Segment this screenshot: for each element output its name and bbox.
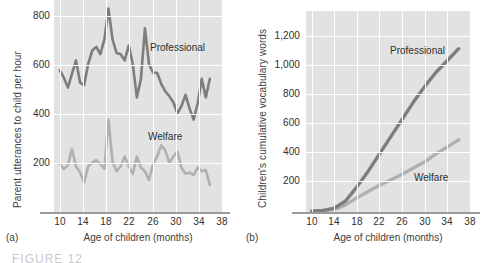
panel-a-welfare-label: Welfare: [148, 131, 182, 142]
gridline-x-34: [199, 0, 200, 212]
panel-b-xtick-26: 26: [390, 216, 414, 227]
figure-container: Parent utterances to child per hour 800 …: [0, 0, 487, 263]
gridline-x-14: [334, 11, 335, 212]
gridline-x-30: [176, 0, 177, 212]
panel-a-xtick-10: 10: [48, 216, 72, 227]
gridline-y-800: [306, 94, 470, 95]
panel-a-xtick-26: 26: [141, 216, 165, 227]
panel-a-xtick-18: 18: [94, 216, 118, 227]
panel-b-xtick-30: 30: [413, 216, 437, 227]
panel-b-ytick-600: 600: [250, 117, 300, 128]
panel-a-series-svg: [54, 0, 222, 212]
panel-b-letter: (b): [246, 232, 258, 243]
panel-b-x-axis-title: Age of children (months): [306, 232, 470, 243]
panel-a-professional-label: Professional: [150, 42, 205, 53]
panel-b-ytick-800: 800: [250, 88, 300, 99]
panel-a-plot-area: [54, 0, 222, 212]
panel-b-professional-label: Professional: [390, 45, 445, 56]
panel-b-xtick-14: 14: [322, 216, 346, 227]
panel-a-ytick-600: 600: [26, 59, 50, 70]
panel-a-ytick-200: 200: [26, 157, 50, 168]
panel-a-xtick-34: 34: [187, 216, 211, 227]
gridline-x-18: [106, 0, 107, 212]
gridline-x-22: [379, 11, 380, 212]
gridline-y-1200: [306, 36, 470, 37]
panel-a-letter: (a): [6, 232, 18, 243]
gridline-x-18: [357, 11, 358, 212]
panel-b-xtick-22: 22: [367, 216, 391, 227]
panel-b-ytick-200: 200: [250, 175, 300, 186]
panel-a-xtick-22: 22: [117, 216, 141, 227]
panel-b-x-axis-line: [292, 212, 480, 214]
gridline-x-10: [312, 11, 313, 212]
panel-a-xtick-30: 30: [164, 216, 188, 227]
chart-panel-a: Parent utterances to child per hour 800 …: [0, 0, 244, 263]
panel-a-y-axis-title: Parent utterances to child per hour: [12, 51, 23, 208]
panel-a-xtick-38: 38: [210, 216, 234, 227]
gridline-y-400: [54, 114, 222, 115]
panel-a-x-axis-line: [40, 212, 230, 214]
panel-b-xtick-38: 38: [458, 216, 482, 227]
gridline-x-14: [83, 0, 84, 212]
panel-b-ytick-1200: 1,200: [250, 30, 300, 41]
panel-a-ytick-400: 400: [26, 108, 50, 119]
gridline-x-10: [60, 0, 61, 212]
panel-b-xtick-10: 10: [300, 216, 324, 227]
chart-panel-b: Children's cumulative vocabulary words 1…: [244, 0, 487, 263]
gridline-x-22: [129, 0, 130, 212]
gridline-y-1000: [306, 65, 470, 66]
gridline-y-800: [54, 16, 222, 17]
gridline-y-600: [54, 65, 222, 66]
figure-caption: FIGURE 12: [12, 252, 83, 263]
gridline-y-200: [54, 163, 222, 164]
panel-b-ytick-1000: 1,000: [250, 59, 300, 70]
panel-a-x-axis-title: Age of children (months): [54, 232, 222, 243]
gridline-y-400: [306, 152, 470, 153]
panel-a-ytick-800: 800: [26, 10, 50, 21]
gridline-x-26: [402, 11, 403, 212]
gridline-y-600: [306, 123, 470, 124]
panel-b-xtick-18: 18: [345, 216, 369, 227]
gridline-x-26: [153, 0, 154, 212]
panel-b-welfare-label: Welfare: [414, 172, 448, 183]
panel-b-ytick-400: 400: [250, 146, 300, 157]
panel-b-xtick-34: 34: [435, 216, 459, 227]
panel-a-xtick-14: 14: [71, 216, 95, 227]
